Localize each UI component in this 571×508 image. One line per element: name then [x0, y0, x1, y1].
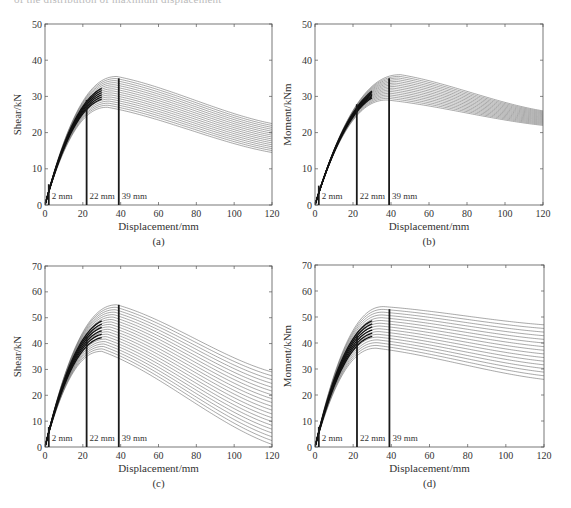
- marker-label: 39 mm: [392, 433, 417, 443]
- marker-label: 22 mm: [360, 433, 385, 443]
- x-tick-label: 60: [424, 208, 434, 219]
- panel-d: 0204060801001200102030405060702 mm22 mm3…: [281, 260, 552, 491]
- marker-label: 22 mm: [90, 191, 115, 201]
- contour-lines: [45, 76, 272, 205]
- y-tick-label: 60: [32, 286, 42, 297]
- panel-a: 020406080100120010203040502 mm22 mm39 mm…: [11, 19, 280, 249]
- y-tick-label: 50: [32, 312, 42, 323]
- x-tick-label: 0: [43, 208, 48, 219]
- y-tick-label: 0: [307, 442, 312, 453]
- y-tick-label: 20: [32, 127, 42, 138]
- y-tick-label: 50: [302, 312, 312, 323]
- marker-label: 2 mm: [52, 433, 73, 443]
- y-tick-label: 20: [32, 390, 42, 401]
- contour-lines: [45, 305, 272, 447]
- x-tick-label: 100: [227, 208, 242, 219]
- y-tick-label: 40: [32, 338, 42, 349]
- marker-label: 2 mm: [322, 191, 343, 201]
- marker-label: 2 mm: [322, 433, 343, 443]
- y-tick-label: 10: [302, 416, 312, 427]
- plot-frame: [315, 24, 543, 205]
- panel-label: (a): [152, 235, 165, 248]
- contour-lines: [315, 75, 543, 205]
- y-axis-label: Shear/kN: [11, 94, 23, 136]
- y-tick-label: 40: [302, 55, 312, 66]
- x-tick-label: 100: [498, 208, 513, 219]
- marker-label: 39 mm: [122, 191, 147, 201]
- marker-label: 39 mm: [392, 191, 417, 201]
- x-axis-label: Displacement/mm: [389, 220, 470, 232]
- y-tick-label: 30: [302, 91, 312, 102]
- panel-c: 0204060801001200102030405060702 mm22 mm3…: [11, 261, 280, 491]
- x-axis-label: Displacement/mm: [118, 220, 199, 232]
- y-tick-label: 0: [37, 442, 42, 453]
- marker-label: 22 mm: [90, 433, 115, 443]
- y-tick-label: 70: [32, 261, 42, 272]
- x-tick-label: 120: [536, 208, 551, 219]
- x-tick-label: 60: [154, 450, 164, 461]
- x-tick-label: 100: [498, 450, 513, 461]
- figure: 020406080100120010203040502 mm22 mm39 mm…: [0, 0, 571, 508]
- contour-lines: [315, 307, 544, 447]
- x-tick-label: 60: [425, 450, 435, 461]
- x-tick-label: 20: [348, 208, 358, 219]
- x-tick-label: 120: [265, 450, 280, 461]
- marker-label: 22 mm: [360, 191, 385, 201]
- x-tick-label: 80: [462, 208, 472, 219]
- panel-label: (b): [423, 235, 436, 248]
- y-tick-label: 30: [32, 91, 42, 102]
- y-tick-label: 30: [32, 364, 42, 375]
- y-tick-label: 70: [302, 260, 312, 271]
- marker-label: 39 mm: [122, 433, 147, 443]
- y-tick-label: 50: [302, 19, 312, 30]
- panel-label: (d): [423, 477, 436, 490]
- y-tick-label: 10: [302, 163, 312, 174]
- y-tick-label: 0: [37, 200, 42, 211]
- x-tick-label: 20: [78, 450, 88, 461]
- y-tick-label: 40: [302, 338, 312, 349]
- y-axis-label: Shear/kN: [11, 336, 23, 378]
- x-tick-label: 20: [348, 450, 358, 461]
- x-tick-label: 100: [227, 450, 242, 461]
- marker-label: 2 mm: [52, 191, 73, 201]
- x-tick-label: 120: [537, 450, 552, 461]
- x-tick-label: 40: [386, 208, 396, 219]
- x-tick-label: 0: [313, 208, 318, 219]
- x-tick-label: 80: [463, 450, 473, 461]
- y-axis-label: Moment/kNm: [281, 324, 293, 387]
- y-tick-label: 30: [302, 364, 312, 375]
- x-tick-label: 0: [313, 450, 318, 461]
- x-tick-label: 80: [191, 208, 201, 219]
- y-tick-label: 50: [32, 19, 42, 30]
- y-axis-label: Moment/kNm: [281, 83, 293, 146]
- y-tick-label: 60: [302, 286, 312, 297]
- y-tick-label: 20: [302, 390, 312, 401]
- x-tick-label: 80: [191, 450, 201, 461]
- x-tick-label: 20: [78, 208, 88, 219]
- x-tick-label: 40: [386, 450, 396, 461]
- x-tick-label: 40: [116, 208, 126, 219]
- panel-b: 020406080100120010203040502 mm22 mm39 mm…: [281, 19, 551, 249]
- x-tick-label: 60: [154, 208, 164, 219]
- x-tick-label: 120: [265, 208, 280, 219]
- x-tick-label: 40: [116, 450, 126, 461]
- panel-label: (c): [152, 477, 165, 490]
- x-axis-label: Displacement/mm: [389, 462, 470, 474]
- y-tick-label: 40: [32, 55, 42, 66]
- x-axis-label: Displacement/mm: [118, 462, 199, 474]
- y-tick-label: 10: [32, 416, 42, 427]
- y-tick-label: 0: [307, 200, 312, 211]
- x-tick-label: 0: [43, 450, 48, 461]
- y-tick-label: 20: [302, 127, 312, 138]
- y-tick-label: 10: [32, 163, 42, 174]
